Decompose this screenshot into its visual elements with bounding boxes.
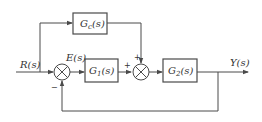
sum2-plus-sign-left: + [124, 61, 131, 70]
summing-junction-2 [133, 64, 149, 80]
block-diagram: R(s) E(s) Y(s) Gc(s) G1(s) G2(s) − + + [0, 0, 262, 122]
block-g2-label: G2(s) [168, 65, 194, 78]
summing-junction-1 [54, 64, 70, 80]
sum1-minus-sign: − [51, 83, 58, 92]
block-gc-label: Gc(s) [80, 18, 105, 31]
feedforward-line [40, 23, 72, 72]
error-label: E(s) [65, 52, 86, 63]
sum2-plus-sign-top: + [134, 53, 141, 62]
output-label: Y(s) [230, 57, 250, 68]
input-label: R(s) [19, 59, 41, 70]
block-g1-label: G1(s) [89, 65, 115, 78]
